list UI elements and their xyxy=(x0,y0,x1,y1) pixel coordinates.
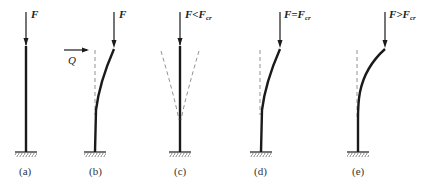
dashed-deflection-left-c xyxy=(161,51,179,120)
load-label-e: F>Fcr xyxy=(388,8,416,22)
ground-hatch-b xyxy=(84,153,106,157)
arrowhead-d xyxy=(278,40,283,48)
ground-hatch-c xyxy=(169,153,191,157)
arrowhead-a xyxy=(24,38,29,46)
caption-e: (e) xyxy=(352,165,365,178)
column-b xyxy=(95,49,114,152)
lateral-label-q: Q xyxy=(68,54,76,66)
panel-a: F (a) xyxy=(15,8,39,178)
panel-c: F<Fcr (c) xyxy=(161,8,212,178)
ground-hatch-e xyxy=(347,153,369,157)
diagram-canvas: F (a) Q F (b) F<Fcr (c) F=Fcr xyxy=(0,0,428,190)
load-label-c: F<Fcr xyxy=(184,8,212,22)
load-label-b: F xyxy=(118,8,127,20)
caption-c: (c) xyxy=(174,165,187,178)
column-d xyxy=(261,49,280,152)
column-e xyxy=(358,49,385,152)
column-buckling-diagram: F (a) Q F (b) F<Fcr (c) F=Fcr xyxy=(0,0,428,190)
caption-a: (a) xyxy=(19,165,32,178)
arrowhead-b xyxy=(112,40,117,48)
caption-b: (b) xyxy=(89,165,102,178)
arrowhead-e xyxy=(383,40,388,48)
panel-d: F=Fcr (d) xyxy=(250,8,311,178)
caption-d: (d) xyxy=(254,165,267,178)
panel-e: F>Fcr (e) xyxy=(347,8,416,178)
panel-b: Q F (b) xyxy=(64,8,127,178)
dashed-deflection-right-c xyxy=(181,51,199,120)
arrowhead-c xyxy=(178,38,183,46)
ground-hatch-d xyxy=(250,153,272,157)
load-label-a: F xyxy=(30,8,39,20)
ground-hatch-a xyxy=(15,153,37,157)
lateral-arrowhead xyxy=(82,48,89,53)
load-label-d: F=Fcr xyxy=(283,8,311,22)
